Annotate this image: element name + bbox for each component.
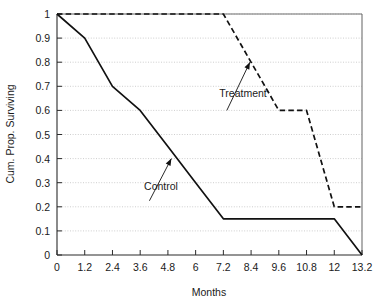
series-label-control: Control xyxy=(144,180,178,192)
x-tick-label-12: 12 xyxy=(328,261,340,273)
y-tick-label-0.6: 0.6 xyxy=(35,104,50,116)
x-tick-label-1.2: 1.2 xyxy=(77,261,92,273)
x-tick-label-6: 6 xyxy=(193,261,199,273)
series-label-treatment: Treatment xyxy=(219,87,267,99)
x-tick-label-8.4: 8.4 xyxy=(244,261,259,273)
y-tick-label-0.4: 0.4 xyxy=(35,153,50,165)
y-tick-label-1: 1 xyxy=(44,8,50,20)
survival-chart: 01.22.43.64.867.28.49.610.81213.2 00.10.… xyxy=(0,0,388,306)
chart-canvas: 01.22.43.64.867.28.49.610.81213.2 00.10.… xyxy=(0,0,388,306)
x-tick-label-13.2: 13.2 xyxy=(352,261,373,273)
y-tick-label-0: 0 xyxy=(44,249,50,261)
y-tick-label-0.9: 0.9 xyxy=(35,32,50,44)
y-tick-label-0.7: 0.7 xyxy=(35,80,50,92)
x-tick-label-0: 0 xyxy=(54,261,60,273)
x-tick-label-2.4: 2.4 xyxy=(105,261,120,273)
y-tick-label-0.2: 0.2 xyxy=(35,201,50,213)
y-tick-label-0.1: 0.1 xyxy=(35,225,50,237)
x-tick-label-9.6: 9.6 xyxy=(272,261,287,273)
y-tick-label-0.3: 0.3 xyxy=(35,177,50,189)
x-tick-label-7.2: 7.2 xyxy=(216,261,231,273)
y-axis-title: Cum. Prop. Surviving xyxy=(4,84,16,183)
x-tick-label-3.6: 3.6 xyxy=(133,261,148,273)
x-tick-label-4.8: 4.8 xyxy=(161,261,176,273)
y-tick-label-0.5: 0.5 xyxy=(35,129,50,141)
y-tick-label-0.8: 0.8 xyxy=(35,56,50,68)
x-tick-label-10.8: 10.8 xyxy=(296,261,317,273)
x-axis-title: Months xyxy=(192,286,226,298)
